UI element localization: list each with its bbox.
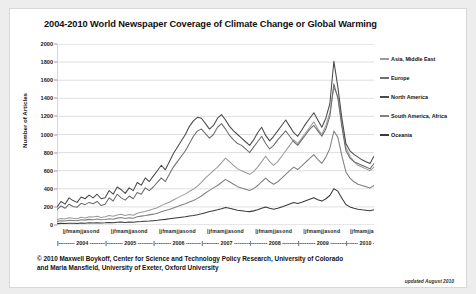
legend-item-1[interactable]: Europe bbox=[380, 68, 467, 87]
plot-area: 2000180016001400120010008006004002000 bbox=[57, 44, 374, 225]
credit-line-2: and Maria Mansfield, University of Exete… bbox=[37, 263, 367, 272]
year-label-group: |--------- 2007 ---------| bbox=[201, 240, 249, 246]
legend-item-4[interactable]: Oceania bbox=[380, 125, 467, 144]
legend-label: Oceania bbox=[391, 132, 412, 138]
y-tick-label: 200 bbox=[27, 204, 53, 210]
updated-note: updated August 2010 bbox=[405, 279, 454, 284]
y-tick-label: 1600 bbox=[27, 77, 53, 83]
credit-line-1: © 2010 Maxwell Boykoff, Center for Scien… bbox=[37, 254, 367, 263]
y-tick-mark bbox=[54, 170, 57, 171]
y-tick-label: 800 bbox=[27, 150, 53, 156]
legend-item-3[interactable]: South America, Africa bbox=[380, 106, 467, 125]
legend-item-2[interactable]: North America bbox=[380, 87, 467, 106]
legend-color-swatch bbox=[380, 115, 389, 117]
y-tick-mark bbox=[54, 62, 57, 63]
x-axis-year-labels: |--------- 2004 ---------||--------- 200… bbox=[57, 240, 374, 250]
legend-color-swatch bbox=[380, 134, 389, 136]
year-label-group: |--------- 2006 ---------| bbox=[153, 240, 201, 246]
legend-label: Europe bbox=[391, 75, 410, 81]
legend-color-swatch bbox=[380, 77, 389, 79]
y-tick-label: 1200 bbox=[27, 113, 53, 119]
legend-color-swatch bbox=[380, 58, 389, 60]
y-tick-mark bbox=[54, 152, 57, 153]
y-tick-mark bbox=[54, 206, 57, 207]
legend-label: North America bbox=[391, 94, 428, 100]
year-label-group: |------ 2010 ------| bbox=[346, 240, 374, 246]
year-label-group: |--------- 2009 ---------| bbox=[298, 240, 346, 246]
y-tick-mark bbox=[54, 80, 57, 81]
y-tick-mark bbox=[54, 225, 57, 226]
y-tick-label: 600 bbox=[27, 168, 53, 174]
month-label-group: |jfmamjjasond bbox=[250, 228, 298, 234]
y-tick-label: 2000 bbox=[27, 41, 53, 47]
month-label-group: |jfmamjja bbox=[346, 228, 374, 234]
legend-label: Asia, Middle East bbox=[391, 56, 435, 62]
y-tick-mark bbox=[54, 44, 57, 45]
y-tick-mark bbox=[54, 98, 57, 99]
y-tick-label: 1000 bbox=[27, 132, 53, 138]
chart-legend: Asia, Middle EastEuropeNorth AmericaSout… bbox=[380, 49, 467, 144]
y-tick-mark bbox=[54, 116, 57, 117]
y-tick-label: 1400 bbox=[27, 95, 53, 101]
legend-color-swatch bbox=[380, 96, 389, 98]
y-axis-ticks: 2000180016001400120010008006004002000 bbox=[57, 44, 374, 225]
chart-panel: 2004-2010 World Newspaper Coverage of Cl… bbox=[9, 8, 467, 288]
legend-item-0[interactable]: Asia, Middle East bbox=[380, 49, 467, 68]
y-tick-label: 0 bbox=[27, 222, 53, 228]
month-label-group: |jfmamjjasond bbox=[298, 228, 346, 234]
month-label-group: |jfmamjjasond bbox=[57, 228, 105, 234]
month-label-group: |jfmamjjasond bbox=[153, 228, 201, 234]
y-tick-mark bbox=[54, 188, 57, 189]
year-label-group: |--------- 2004 ---------| bbox=[57, 240, 105, 246]
year-label-group: |--------- 2008 ---------| bbox=[250, 240, 298, 246]
year-label-group: |--------- 2005 ---------| bbox=[105, 240, 153, 246]
x-axis-month-labels: |jfmamjjasond|jfmamjjasond|jfmamjjasond|… bbox=[57, 228, 374, 237]
footer-credit: © 2010 Maxwell Boykoff, Center for Scien… bbox=[37, 254, 367, 273]
y-tick-mark bbox=[54, 134, 57, 135]
legend-label: South America, Africa bbox=[391, 113, 447, 119]
chart-title: 2004-2010 World Newspaper Coverage of Cl… bbox=[44, 19, 384, 29]
y-tick-label: 1800 bbox=[27, 59, 53, 65]
figure-container: 2004-2010 World Newspaper Coverage of Cl… bbox=[0, 0, 476, 294]
y-tick-label: 400 bbox=[27, 186, 53, 192]
month-label-group: |jfmamjjasond bbox=[105, 228, 153, 234]
month-label-group: |jfmamjjasond bbox=[201, 228, 249, 234]
